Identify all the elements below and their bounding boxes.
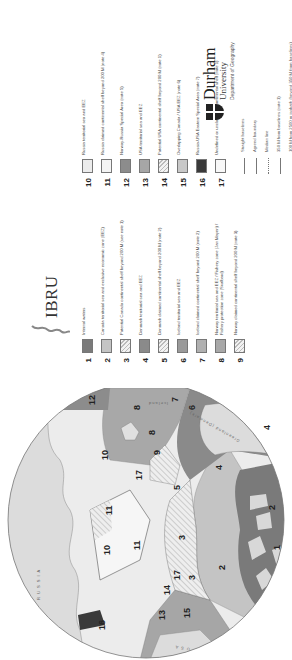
legend-label: Potential USA continental shelf beyond 2… (157, 30, 162, 155)
legend-label: Canada territorial sea and exclusive eco… (100, 210, 105, 335)
ibru-logo: IBRU (30, 258, 70, 338)
region-label: 7 (170, 397, 180, 402)
legend-label: Iceland claimed continental shelf beyond… (195, 210, 200, 335)
ibru-wave-icon (30, 316, 70, 338)
ibru-text: IBRU (42, 275, 62, 318)
map-sheet: 12233445678891010111112131415161717 R U … (0, 0, 292, 660)
legend-label: Overlapping Canada / USA EEZ (note 6) (176, 30, 181, 155)
region-label: 2 (217, 565, 227, 570)
line-sample (268, 158, 269, 174)
legend-item: 8Norway territorial sea and EEZ / Fisher… (215, 200, 229, 370)
legend-swatch (196, 339, 207, 353)
legend-item: 14Potential USA continental shelf beyond… (158, 20, 172, 190)
region-label: 8 (147, 430, 157, 435)
region-label: 4 (262, 425, 272, 430)
legend-number: 5 (160, 358, 169, 370)
durham-department: Department of Geography (229, 42, 235, 100)
placename-iceland: Iceland (148, 401, 168, 406)
durham-name: Durham (202, 48, 218, 100)
region-label: 9 (152, 450, 162, 455)
legend-item: 10Russia territorial sea and EEZ (82, 20, 96, 190)
zone-norway-russia-special (55, 388, 110, 410)
legend-number: 16 (198, 178, 207, 190)
line-legend-item: 350 M from baselines (note 1) (276, 4, 288, 174)
line-legend-label: Median line (264, 32, 269, 152)
line-legend-item: 100 M from 2500 m isobath (beyond 350 M … (288, 4, 292, 174)
legend-swatch (82, 339, 93, 353)
region-label: 11 (104, 505, 114, 515)
legend-number: 14 (160, 178, 169, 190)
legend-swatch (234, 339, 245, 353)
legend-label: USA territorial sea and EEZ (138, 30, 143, 155)
legend-label: Norway claimed continental shelf beyond … (233, 210, 238, 335)
legend-swatch (101, 159, 112, 173)
line-sample (256, 158, 257, 174)
region-label: 16 (97, 620, 107, 630)
region-label: 10 (102, 545, 112, 555)
line-sample (244, 158, 245, 174)
legend-number: 12 (122, 178, 131, 190)
region-label: 4 (214, 465, 224, 470)
legend-label: Denmark claimed continental shelf beyond… (157, 210, 162, 335)
line-legend-label: 100 M from 2500 m isobath (beyond 350 M … (288, 32, 292, 152)
legend-item: 1Internal waters (82, 200, 96, 370)
legend-swatch (158, 159, 169, 173)
legend-number: 6 (179, 358, 188, 370)
legend-swatch (158, 339, 169, 353)
region-label: 13 (157, 610, 167, 620)
durham-logo: Durham University Department of Geograph… (196, 10, 256, 120)
legend-number: 11 (103, 178, 112, 190)
legend-swatch (139, 159, 150, 173)
region-label: 12 (87, 395, 97, 405)
arctic-map: 12233445678891010111112131415161717 R U … (0, 388, 292, 660)
legend-label: Russia claimed continental shelf beyond … (100, 30, 105, 155)
legend-number: 13 (141, 178, 150, 190)
region-label: 17 (134, 470, 144, 480)
legend-swatch (139, 339, 150, 353)
legend-item: 4Denmark territorial sea and EEZ (139, 200, 153, 370)
legend-label: Potential Canada continental shelf beyon… (119, 210, 124, 335)
region-label: 11 (132, 540, 142, 550)
legend-label: Norway-Russia Special Area (note 5) (119, 30, 124, 155)
legend-swatch (101, 339, 112, 353)
line-sample (280, 158, 281, 174)
region-label: 10 (100, 450, 110, 460)
map-canvas: 12233445678891010111112131415161717 R U … (0, 388, 292, 660)
legend-item: 5Denmark claimed continental shelf beyon… (158, 200, 172, 370)
region-label: 15 (182, 608, 192, 618)
legend-number: 10 (84, 178, 93, 190)
legend-number: 7 (198, 358, 207, 370)
placename-russia: R U S S I A (36, 569, 41, 600)
legend-label: Norway territorial sea and EEZ / Fishery… (214, 210, 224, 335)
legend-item: 7Iceland claimed continental shelf beyon… (196, 200, 210, 370)
legend-label: Internal waters (81, 210, 86, 335)
line-legend-item: Median line (264, 4, 276, 174)
region-label: 14 (162, 585, 172, 595)
legend-number: 9 (236, 358, 245, 370)
region-label: 6 (187, 405, 197, 410)
legend-number: 8 (217, 358, 226, 370)
legend-item: 2Canada territorial sea and exclusive ec… (101, 200, 115, 370)
legend-item: 12Norway-Russia Special Area (note 5) (120, 20, 134, 190)
legend-number: 4 (141, 358, 150, 370)
region-label: 17 (172, 570, 182, 580)
legend-number: 1 (84, 358, 93, 370)
durham-crest-icon (206, 104, 224, 120)
legend-number: 3 (122, 358, 131, 370)
legend-swatch (82, 159, 93, 173)
legend-item: 15Overlapping Canada / USA EEZ (note 6) (177, 20, 191, 190)
durham-university: University (218, 62, 228, 100)
legend-number: 17 (217, 178, 226, 190)
legend-swatch (215, 159, 226, 173)
region-label: 3 (177, 535, 187, 540)
legend-swatch (196, 159, 207, 173)
legend-swatch (215, 339, 226, 353)
legend-swatch (177, 159, 188, 173)
legend-item: 3Potential Canada continental shelf beyo… (120, 200, 134, 370)
legend-swatch (120, 339, 131, 353)
region-label: 3 (187, 575, 197, 580)
region-label: 5 (172, 485, 182, 490)
legend-label: Russia territorial sea and EEZ (81, 30, 86, 155)
legend-number: 2 (103, 358, 112, 370)
line-legend-label: 350 M from baselines (note 1) (276, 32, 281, 152)
